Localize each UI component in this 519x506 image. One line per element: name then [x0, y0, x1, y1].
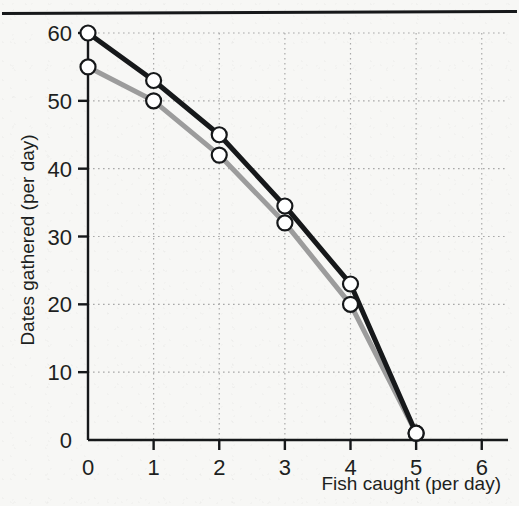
chart-page: 01020304050600123456 Fish caught (per da…	[0, 0, 519, 506]
y-tick-label: 20	[48, 292, 72, 317]
x-axis-title: Fish caught (per day)	[321, 473, 501, 494]
y-axis-title: Dates gathered (per day)	[17, 134, 38, 345]
x-tick-label: 0	[82, 455, 94, 480]
tick-labels: 01020304050600123456	[48, 21, 488, 480]
y-tick-label: 60	[48, 21, 72, 46]
data-point-marker	[277, 198, 292, 213]
x-tick-label: 1	[148, 455, 160, 480]
data-point-marker	[277, 215, 292, 230]
data-point-marker	[81, 26, 96, 41]
data-point-marker	[81, 59, 96, 74]
y-tick-label: 10	[48, 360, 72, 385]
y-tick-label: 0	[60, 428, 72, 453]
data-point-marker	[409, 426, 424, 441]
y-tick-label: 30	[48, 225, 72, 250]
data-series-layer	[81, 26, 424, 441]
data-point-marker	[212, 148, 227, 163]
data-point-marker	[146, 73, 161, 88]
x-tick-label: 2	[213, 455, 225, 480]
data-point-marker	[343, 297, 358, 312]
line-chart: 01020304050600123456 Fish caught (per da…	[0, 0, 519, 506]
series-line-gray-curve	[88, 67, 416, 433]
data-point-marker	[212, 127, 227, 142]
y-tick-label: 50	[48, 89, 72, 114]
data-point-marker	[146, 93, 161, 108]
y-tick-label: 40	[48, 157, 72, 182]
x-tick-label: 3	[279, 455, 291, 480]
data-point-marker	[343, 276, 358, 291]
